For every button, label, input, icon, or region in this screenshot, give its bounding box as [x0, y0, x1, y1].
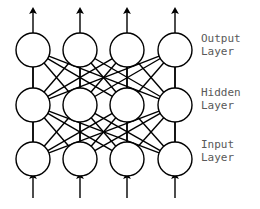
input-layer-label: InputLayer — [201, 138, 234, 164]
output-label-line-1: Layer — [201, 45, 241, 58]
neuron-nodes-group — [16, 33, 192, 176]
neuron-node-input — [63, 142, 97, 176]
input-label-line-0: Input — [201, 138, 234, 151]
neural-network-diagram: OutputLayer HiddenLayer InputLayer — [0, 0, 260, 209]
output-label-line-0: Output — [201, 32, 241, 45]
neuron-node-input — [110, 142, 144, 176]
hidden-label-line-0: Hidden — [201, 86, 241, 99]
neuron-node-hidden — [110, 88, 144, 122]
neuron-node-input — [158, 142, 192, 176]
neuron-node-output — [110, 33, 144, 67]
output-layer-label: OutputLayer — [201, 32, 241, 58]
neuron-node-hidden — [63, 88, 97, 122]
neuron-node-hidden — [158, 88, 192, 122]
neuron-node-hidden — [16, 88, 50, 122]
neuron-node-output — [63, 33, 97, 67]
connection-edges-group — [33, 56, 175, 153]
hidden-label-line-1: Layer — [201, 99, 241, 112]
neuron-node-output — [158, 33, 192, 67]
neuron-node-output — [16, 33, 50, 67]
hidden-layer-label: HiddenLayer — [201, 86, 241, 112]
input-label-line-1: Layer — [201, 151, 234, 164]
io-arrows-group — [33, 11, 175, 198]
neuron-node-input — [16, 142, 50, 176]
